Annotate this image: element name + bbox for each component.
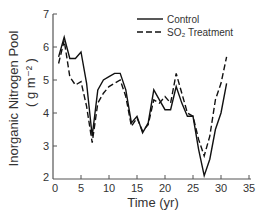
y-tick-label: 6 (43, 41, 49, 53)
x-tick-label: 35 (243, 182, 255, 194)
y-tick-label: 3 (43, 140, 49, 152)
legend: ControlSO₂ Treatment (137, 14, 233, 38)
legend-label: SO₂ Treatment (167, 27, 233, 38)
y-tick-label: 4 (43, 107, 49, 119)
y-tick-label: 5 (43, 74, 49, 86)
y-axis-title: Inorganic Nitrogen Pool (6, 30, 21, 166)
x-tick-label: 10 (103, 182, 115, 194)
y-tick-label: 2 (43, 171, 49, 183)
x-axis-title: Time (yr) (127, 195, 179, 210)
x-tick-label: 30 (215, 182, 227, 194)
x-tick-label: 20 (159, 182, 171, 194)
legend-label: Control (167, 14, 199, 25)
series-line-control (59, 37, 227, 176)
axes: 05101520253035234567Time (yr)Inorganic N… (6, 8, 255, 210)
y-tick-label: 7 (43, 8, 49, 20)
x-tick-label: 5 (78, 182, 84, 194)
y-axis-units: ( g m⁻² ) (23, 58, 38, 107)
series-group (59, 37, 227, 176)
x-tick-label: 25 (187, 182, 199, 194)
line-chart: 05101520253035234567Time (yr)Inorganic N… (0, 0, 264, 217)
series-line-so2-treatment (59, 40, 227, 155)
x-tick-label: 0 (52, 182, 58, 194)
x-tick-label: 15 (131, 182, 143, 194)
